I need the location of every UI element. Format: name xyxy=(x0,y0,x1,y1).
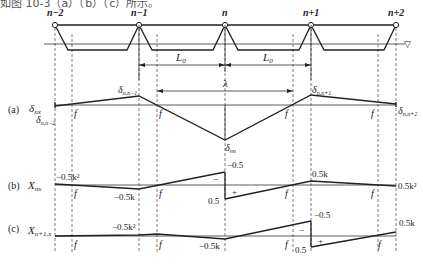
value-delta-n-n+1: δn,n+1 xyxy=(312,84,331,96)
panel-c-f-1: f xyxy=(74,239,78,250)
panel-c-f-2: f xyxy=(159,239,163,250)
value-c-at-n: −0.5k xyxy=(199,241,220,251)
panel-c-ordinate: Xn+1,x xyxy=(27,224,52,238)
value-b-at-n-top: −0.5 xyxy=(227,160,244,170)
panel-b-influence-line xyxy=(55,172,396,199)
node-label-n: n xyxy=(222,7,228,18)
gantry-structure xyxy=(44,22,405,80)
panel-a-label: (a) xyxy=(8,104,19,116)
node-label-n+2: n+2 xyxy=(388,7,404,18)
span-label-right: L0 xyxy=(262,51,273,65)
value-delta-n-n-2: δn,n−2 xyxy=(36,114,55,126)
value-b-at-n-1: −0.5k xyxy=(114,192,135,202)
panel-a-influence-line xyxy=(55,95,396,140)
sign-minus-b: − xyxy=(213,174,218,184)
value-c-at-n+1-top: −0.5 xyxy=(314,210,331,220)
sign-minus-c: − xyxy=(299,225,304,235)
panel-c-influence-line xyxy=(55,221,396,247)
influence-line-diagram: n−2 n−1 n n+1 n+2 ▽ L0 L0 λ (a) δnx δn,n… xyxy=(0,0,423,265)
value-b-left-end: −0.5k² xyxy=(56,172,80,182)
value-b-at-n-bottom: 0.5 xyxy=(208,196,220,206)
value-b-right-end: 0.5k² xyxy=(398,181,417,191)
water-level-icon: ▽ xyxy=(404,39,411,49)
panel-a-f-3: f xyxy=(285,108,289,119)
panel-a-f-2: f xyxy=(159,108,163,119)
panel-c-label: (c) xyxy=(8,223,19,235)
panel-a-f-4: f xyxy=(371,108,375,119)
panel-b-f-4: f xyxy=(371,188,375,199)
node-label-n-1: n−1 xyxy=(131,7,148,18)
panel-b-label: (b) xyxy=(8,180,20,192)
panel-b-ordinate: Xnx xyxy=(27,179,42,193)
panel-a-f-1: f xyxy=(74,108,78,119)
lambda-label: λ xyxy=(222,77,228,89)
panel-c-f-4: f xyxy=(378,239,382,250)
node-label-n-2: n−2 xyxy=(47,7,64,18)
node-label-n+1: n+1 xyxy=(303,7,319,18)
span-label-left: L0 xyxy=(175,51,186,65)
value-delta-n-n-1: δn,n−1 xyxy=(118,84,137,96)
panel-c-f-3: f xyxy=(285,239,289,250)
sign-plus-b: + xyxy=(232,187,237,197)
value-delta-n-n+2: δn,n+2 xyxy=(398,105,417,117)
value-c-at-n-1: −0.5k² xyxy=(112,222,136,232)
value-delta-nn: δnn xyxy=(225,142,236,154)
panel-b-f-2: f xyxy=(159,188,163,199)
value-c-at-n+1-bottom: 0.5 xyxy=(295,245,307,255)
panel-b-f-1: f xyxy=(74,188,78,199)
sign-plus-c: + xyxy=(318,236,323,246)
value-b-at-n+1: 0.5k xyxy=(312,169,328,179)
value-c-right-end: 0.5k xyxy=(399,218,415,228)
panel-b-f-3: f xyxy=(285,188,289,199)
